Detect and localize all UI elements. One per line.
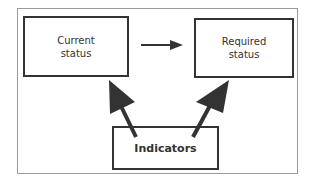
arrow-indicators-to-required [193, 80, 229, 137]
arrow-indicators-to-current [109, 80, 136, 137]
arrows-layer [0, 0, 313, 186]
arrow-current-to-required [141, 40, 183, 50]
